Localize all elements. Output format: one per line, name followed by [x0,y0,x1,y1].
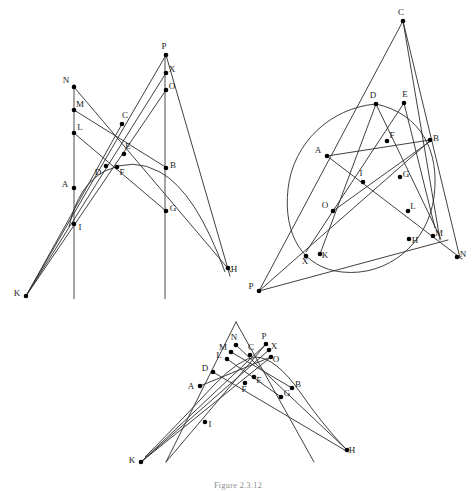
parabola-pascal-construction: NMLAIKCEDFPXOBGH [14,41,238,299]
point-I [203,420,208,425]
point-label-G: G [170,203,177,213]
point-label-B: B [433,133,439,143]
point-D [211,370,216,375]
line-D-H [213,372,348,452]
point-label-K: K [322,250,329,260]
point-label-A: A [62,179,69,189]
line-C-P [259,21,403,291]
point-O [331,209,336,214]
point-label-O: O [322,200,329,210]
line-E-X [306,103,404,252]
line-M-B [74,110,167,168]
point-O [164,88,169,93]
point-label-B: B [295,379,301,389]
point-label-N: N [460,249,467,259]
point-label-D: D [370,90,377,100]
point-A [198,384,203,389]
point-label-K: K [14,288,21,298]
point-label-H: H [349,445,356,455]
point-label-P: P [161,41,166,51]
point-label-L: L [216,350,222,360]
point-D [104,164,109,169]
point-I [72,222,77,227]
point-N [455,255,460,260]
point-N [234,343,239,348]
point-N [72,85,77,90]
point-label-A: A [315,145,322,155]
line-O-B-ext [333,140,432,211]
point-A [325,154,330,159]
point-label-X: X [271,341,278,351]
point-A [72,186,77,191]
point-label-I: I [360,168,363,178]
point-label-E: E [125,141,131,151]
geometry-figure: NMLAIKCEDFPXOBGHCDEBFAGIOLHMNKXPNPMXCLOD… [0,0,476,491]
point-C [120,122,125,127]
point-label-P: P [261,331,266,341]
point-label-H: H [231,264,238,274]
point-G [279,395,284,400]
point-E [122,152,127,157]
point-label-C: C [248,342,254,352]
line-D-K [320,104,376,254]
line-P-B [259,139,432,291]
point-label-O: O [273,354,280,364]
point-label-A: A [188,381,195,391]
point-label-E: E [256,375,262,385]
ellipse-pascal-construction: CDEBFAGIOLHMNKXP [248,7,466,293]
point-label-I: I [209,419,212,429]
point-label-K: K [129,455,136,465]
point-label-N: N [63,75,70,85]
line-N-H [236,345,347,450]
point-label-C: C [398,7,404,17]
line-N-H [74,87,231,272]
point-label-F: F [119,167,124,177]
point-I [361,180,366,185]
point-C [248,353,253,358]
point-label-B: B [170,160,176,170]
point-M [229,350,234,355]
point-G [164,209,169,214]
point-label-M: M [76,99,84,109]
point-D [374,102,379,107]
point-E [402,101,407,106]
point-label-X: X [302,256,309,266]
point-label-G: G [284,388,291,398]
point-label-O: O [169,81,176,91]
point-B [290,386,295,391]
line-K-X [26,73,166,296]
figure-caption: Figure 2.3.12 [0,481,476,491]
point-label-P: P [248,281,253,291]
degenerate-pascal-construction: NPMXCLODEBFAGIKH [129,322,356,465]
parabola-arc [69,164,225,272]
point-label-D: D [202,363,209,373]
point-B [164,166,169,171]
point-L [225,357,230,362]
point-B [428,138,433,143]
point-label-E: E [402,89,408,99]
point-label-H: H [412,235,419,245]
point-L [72,131,77,136]
point-label-L: L [77,122,83,132]
geometry-diagram-canvas: NMLAIKCEDFPXOBGHCDEBFAGIOLHMNKXPNPMXCLOD… [0,0,476,491]
line-C-H [403,21,440,240]
point-label-F: F [389,130,394,140]
point-label-C: C [122,110,128,120]
point-G [398,175,403,180]
point-H [407,237,412,242]
point-label-D: D [95,167,102,177]
point-P [164,53,169,58]
point-label-X: X [169,64,176,74]
point-P [257,289,262,294]
point-X [164,71,169,76]
point-C [401,19,406,24]
point-label-F: F [241,384,246,394]
point-K [24,294,29,299]
point-label-I: I [79,222,82,232]
point-label-N: N [231,332,238,342]
point-label-M: M [435,228,443,238]
point-K [139,460,144,465]
point-H [226,266,231,271]
point-label-G: G [403,169,410,179]
point-label-L: L [410,201,416,211]
